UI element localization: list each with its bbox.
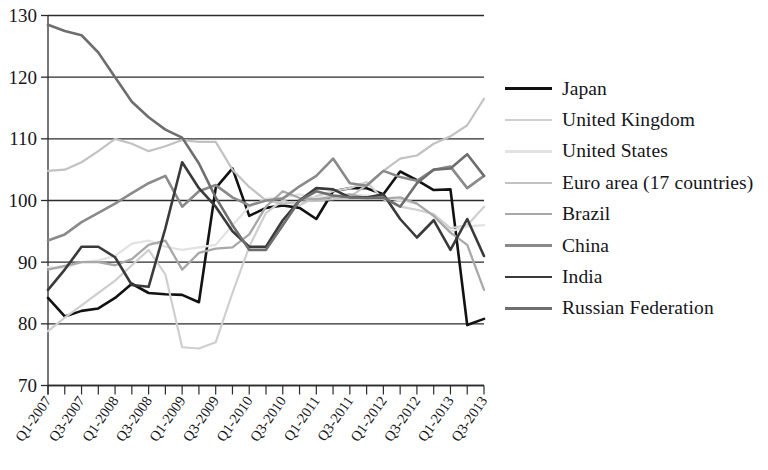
legend-line-swatch — [505, 150, 552, 152]
chart-legend: JapanUnited KingdomUnited StatesEuro are… — [505, 73, 767, 324]
chart-figure: 708090100110120130Q1-2007Q3-2007Q1-2008Q… — [0, 0, 768, 470]
legend-item[interactable]: Brazil — [505, 199, 767, 230]
legend-item-label: Japan — [562, 78, 607, 100]
legend-item-label: United Kingdom — [562, 109, 695, 131]
y-axis-tick-label: 100 — [9, 190, 38, 211]
legend-item-label: Brazil — [562, 203, 610, 225]
legend-item[interactable]: India — [505, 261, 767, 292]
legend-item-label: Russian Federation — [562, 297, 714, 319]
y-axis-tick-label: 130 — [9, 5, 38, 26]
legend-line-swatch — [505, 119, 552, 121]
legend-item-label: India — [562, 266, 603, 288]
legend-item[interactable]: Japan — [505, 73, 767, 104]
series-line — [48, 159, 484, 241]
legend-item[interactable]: Euro area (17 countries) — [505, 167, 767, 198]
legend-item[interactable]: Russian Federation — [505, 293, 767, 324]
y-axis-tick-label: 90 — [18, 252, 37, 273]
legend-line-swatch — [505, 213, 552, 215]
y-axis-tick-label: 70 — [18, 375, 37, 396]
legend-line-swatch — [505, 87, 552, 90]
legend-line-swatch — [505, 244, 552, 247]
legend-item-label: United States — [562, 140, 668, 162]
y-axis-tick-label: 120 — [9, 67, 38, 88]
series-line — [48, 191, 484, 290]
legend-item[interactable]: China — [505, 230, 767, 261]
legend-item-label: Euro area (17 countries) — [562, 172, 753, 194]
y-axis-tick-label: 110 — [9, 128, 37, 149]
legend-item[interactable]: United States — [505, 136, 767, 167]
legend-item[interactable]: United Kingdom — [505, 104, 767, 135]
series-line — [48, 99, 484, 204]
y-axis-tick-label: 80 — [18, 313, 37, 334]
legend-line-swatch — [505, 276, 552, 279]
legend-line-swatch — [505, 182, 552, 184]
legend-item-label: China — [562, 235, 609, 257]
series-line — [48, 25, 484, 250]
legend-line-swatch — [505, 307, 552, 310]
